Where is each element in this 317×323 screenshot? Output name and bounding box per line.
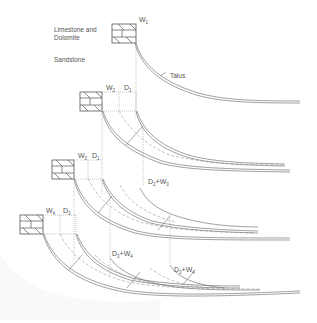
stage-1 — [112, 24, 300, 118]
talus-label: Talus — [170, 72, 186, 79]
stage-3 — [52, 160, 290, 275]
caprock-block-3 — [52, 160, 74, 179]
talus-slope-1 — [135, 43, 300, 103]
caprock-block-2 — [80, 92, 102, 111]
caprock-block-4 — [20, 215, 43, 234]
talus-leader — [160, 72, 166, 76]
w3-label: W3 — [78, 152, 88, 161]
sandstone-label: Sandstone — [54, 56, 85, 63]
w1-label: W1 — [139, 16, 149, 25]
w4-label: W4 — [46, 207, 56, 216]
caprock-label-line2: Dolomite — [54, 34, 80, 41]
scarp-retreat-diagram: Limestone and Dolomite Sandstone Talus W… — [0, 0, 317, 323]
d2-plus-w3-label: D2+W3 — [148, 178, 169, 187]
w2-label: W2 — [106, 84, 116, 93]
caprock-block-1 — [112, 24, 136, 43]
d1-label-stage3: D1 — [92, 152, 100, 161]
stage-2 — [80, 92, 290, 195]
caprock-label-line1: Limestone and — [54, 26, 97, 33]
d3-label: D3 — [63, 207, 71, 216]
d3-plus-w4-label-left: D3+W4 — [112, 250, 133, 259]
d1-label: D1 — [124, 84, 132, 93]
